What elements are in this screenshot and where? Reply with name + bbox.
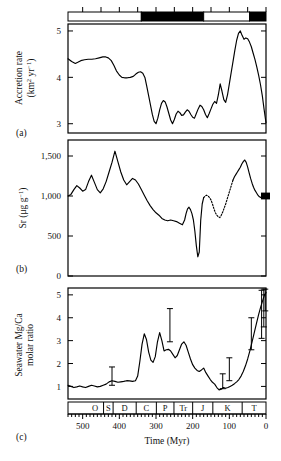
period-label-D: D xyxy=(122,403,128,413)
period-label-C: C xyxy=(143,403,149,413)
panel-c-ylabel: Seawater Mg/Camolar ratio xyxy=(14,312,35,376)
polarity-segment-1-black xyxy=(141,12,203,21)
panel-b-ylabel: Sr (μg g−1) xyxy=(17,187,30,228)
polarity-bar xyxy=(68,7,266,21)
sr-curve-segment-1 xyxy=(68,151,204,257)
polarity-segment-0-white xyxy=(68,12,141,21)
period-label-Tr: Tr xyxy=(179,403,187,413)
panel-a-ytick-label-5: 5 xyxy=(57,26,62,36)
panel-c-ylabel-line2: molar ratio xyxy=(25,324,35,366)
panel-c: 12345 xyxy=(57,288,267,399)
x-tick-label-500: 500 xyxy=(76,421,90,431)
panel-b-ytick-label-1000: 1,000 xyxy=(41,191,62,201)
geochemistry-time-series-figure: 345Accretion rate(km2 yr−1)(a)05001,0001… xyxy=(0,0,281,461)
error-bar-3 xyxy=(226,358,232,381)
period-label-P: P xyxy=(163,403,168,413)
x-tick-label-100: 100 xyxy=(223,421,237,431)
mg-ca-curve xyxy=(68,293,266,390)
panel-a-label: (a) xyxy=(16,128,27,139)
panel-c-ytick-label-1: 1 xyxy=(57,382,62,392)
panel-a-ylabel: Accretion rate(km2 yr−1) xyxy=(14,51,37,105)
period-label-T: T xyxy=(251,403,257,413)
panel-b-series xyxy=(68,151,270,257)
x-tick-label-300: 300 xyxy=(149,421,163,431)
period-bar: OSDCPTrJKT xyxy=(68,402,266,414)
x-tick-label-0: 0 xyxy=(264,421,269,431)
polarity-segment-3-black xyxy=(250,12,267,21)
error-bar-0 xyxy=(109,367,115,385)
panel-a-tag: (a) xyxy=(16,128,27,139)
period-label-O: O xyxy=(92,403,98,413)
panel-c-ytick-label-4: 4 xyxy=(57,313,62,323)
error-bar-1 xyxy=(167,309,173,342)
period-label-J: J xyxy=(201,403,205,413)
panel-b-ytick-label-1500: 1,500 xyxy=(41,151,62,161)
x-tick-label-200: 200 xyxy=(186,421,200,431)
panel-c-tag: (c) xyxy=(16,432,27,443)
panel-b-ylabel: Sr (μg g−1) xyxy=(17,187,30,228)
panel-c-label: (c) xyxy=(16,432,27,443)
panel-a-ylabel-line2: (km2 yr−1) xyxy=(25,59,38,98)
accretion-rate-curve xyxy=(68,31,266,124)
panel-a-ytick-label-4: 4 xyxy=(57,73,62,83)
error-bar-2 xyxy=(220,374,226,389)
panel-a: 345 xyxy=(57,24,267,133)
period-label-K: K xyxy=(224,403,231,413)
panel-a-ylabel-line1: Accretion rate xyxy=(14,51,24,105)
panel-b-ytick-label-500: 500 xyxy=(48,231,62,241)
panel-b-frame xyxy=(68,140,266,276)
panel-b-tag: (b) xyxy=(16,264,27,275)
panel-c-series xyxy=(68,289,268,390)
panel-b-ytick-label-0: 0 xyxy=(57,271,62,281)
panel-c-ytick-label-5: 5 xyxy=(57,290,62,300)
panel-a-ytick-label-3: 3 xyxy=(57,119,62,129)
figure-container: 345Accretion rate(km2 yr−1)(a)05001,0001… xyxy=(0,0,281,461)
panel-c-ytick-label-2: 2 xyxy=(57,359,62,369)
sr-curve-segment-2 xyxy=(233,160,266,198)
polarity-segment-2-white xyxy=(204,12,250,21)
x-axis-label: Time (Myr) xyxy=(145,436,190,447)
panel-c-ylabel-line1: Seawater Mg/Ca xyxy=(14,312,24,376)
x-axis: 5004003002001000Time (Myr) xyxy=(68,414,269,447)
sr-end-marker xyxy=(261,193,270,200)
period-label-S: S xyxy=(106,403,111,413)
panel-a-series xyxy=(68,31,266,124)
x-tick-label-400: 400 xyxy=(113,421,127,431)
panel-c-ytick-label-3: 3 xyxy=(57,336,62,346)
panel-b-label: (b) xyxy=(16,264,27,275)
sr-curve-dotted xyxy=(204,180,233,218)
